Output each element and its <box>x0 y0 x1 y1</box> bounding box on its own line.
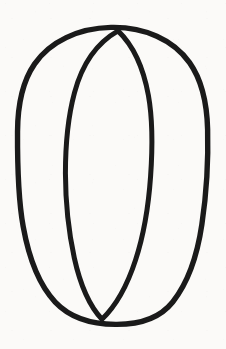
drawing-canvas <box>0 0 226 349</box>
canvas-background <box>0 0 226 349</box>
line-drawing-figure <box>0 0 226 349</box>
